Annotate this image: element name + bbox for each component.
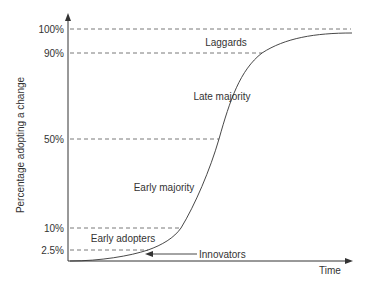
x-axis-label: Time [319, 265, 341, 276]
y-tick-50: 50% [44, 134, 64, 145]
y-tick-10: 10% [44, 223, 64, 234]
label-early-majority: Early majority [134, 182, 195, 193]
label-laggards: Laggards [205, 37, 247, 48]
y-axis-label: Percentage adopting a change [15, 76, 26, 213]
adoption-curve [70, 33, 352, 261]
diffusion-of-innovation-diagram: 100% 90% 50% 10% 2.5% Percentage adoptin… [0, 0, 369, 293]
label-early-adopters: Early adopters [91, 233, 155, 244]
innovators-arrow-icon [145, 251, 153, 257]
label-late-majority: Late majority [193, 91, 250, 102]
label-innovators: Innovators [199, 249, 246, 260]
y-tick-2-5: 2.5% [41, 245, 64, 256]
y-tick-90: 90% [44, 48, 64, 59]
y-axis-arrow-icon [65, 13, 71, 21]
x-axis-arrow-icon [345, 258, 353, 264]
y-tick-100: 100% [38, 24, 64, 35]
